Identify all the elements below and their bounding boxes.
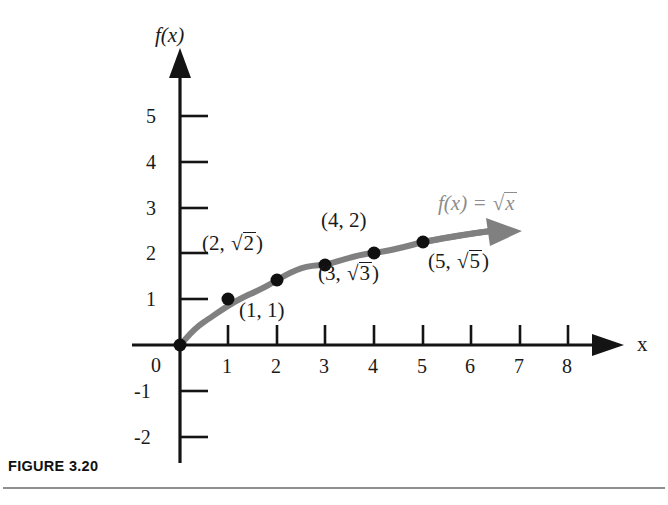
x-tick-label-3-text: 3 xyxy=(319,355,329,377)
y-tick-label-3-text: 3 xyxy=(146,197,156,219)
data-point-origin xyxy=(174,339,187,352)
x-tick-label-7: 7 xyxy=(514,356,524,376)
x-tick-label-5-text: 5 xyxy=(417,355,427,377)
y-tick-label-4: 4 xyxy=(146,152,156,172)
sqrt-symbol-icon: √3 xyxy=(346,262,372,284)
point-label-2-sqrt2: (2, √2) xyxy=(202,232,263,254)
data-point-4-2 xyxy=(368,247,381,260)
x-axis-title-text: x xyxy=(637,332,648,356)
x-tick-label-2: 2 xyxy=(271,356,281,376)
y-axis-arrow-icon xyxy=(169,48,191,78)
x-tick-label-7-text: 7 xyxy=(514,355,524,377)
x-tick-label-2-text: 2 xyxy=(271,355,281,377)
plot-canvas xyxy=(0,0,668,505)
x-tick-label-6-text: 6 xyxy=(465,355,475,377)
function-label-radicand: x xyxy=(504,192,516,214)
point-label-3-radicand: 3 xyxy=(359,262,373,284)
function-label-lhs: f(x) = xyxy=(438,191,492,215)
x-tick-label-4-text: 4 xyxy=(368,355,378,377)
y-tick-label-minus-2: -2 xyxy=(134,427,151,447)
function-label: f(x) = √x xyxy=(438,192,517,214)
point-label-4-2: (4, 2) xyxy=(321,210,367,231)
x-axis-arrow-icon xyxy=(592,334,624,356)
point-label-1-1: (1, 1) xyxy=(239,300,285,321)
point-label-5-sqrt5: (5, √5) xyxy=(428,250,489,272)
y-tick-label-1: 1 xyxy=(146,289,156,309)
y-axis-title: f(x) xyxy=(155,25,184,46)
y-tick-label-5: 5 xyxy=(146,106,156,126)
bottom-divider xyxy=(3,487,665,489)
curve-arrow-icon xyxy=(486,218,522,246)
data-point-2-sqrt2 xyxy=(271,274,284,287)
point-label-3-prefix: (3, xyxy=(318,261,346,285)
y-tick-label-2: 2 xyxy=(146,243,156,263)
point-label-3-suffix: ) xyxy=(372,261,379,285)
x-tick-label-8-text: 8 xyxy=(562,355,572,377)
point-label-5-suffix: ) xyxy=(482,249,489,273)
y-tick-label-minus-1: -1 xyxy=(134,381,151,401)
origin-label: 0 xyxy=(151,355,161,375)
point-label-4-text: (4, 2) xyxy=(321,208,367,232)
y-tick-label-minus-1-text: -1 xyxy=(134,380,151,402)
origin-label-text: 0 xyxy=(151,354,161,376)
data-point-5-sqrt5 xyxy=(417,236,430,249)
point-label-2-prefix: (2, xyxy=(202,231,230,255)
sqrt-symbol-icon: √2 xyxy=(230,232,256,254)
point-label-1-1-text: (1, 1) xyxy=(239,298,285,322)
figure-caption: FIGURE 3.20 xyxy=(8,458,98,474)
x-tick-label-3: 3 xyxy=(319,356,329,376)
point-label-2-radicand: 2 xyxy=(243,232,257,254)
point-label-5-radicand: 5 xyxy=(469,250,483,272)
x-tick-label-1: 1 xyxy=(222,356,232,376)
point-label-5-prefix: (5, xyxy=(428,249,456,273)
x-tick-label-4: 4 xyxy=(368,356,378,376)
sqrt-curve-extension xyxy=(423,230,496,242)
x-tick-label-8: 8 xyxy=(562,356,572,376)
y-tick-label-4-text: 4 xyxy=(146,151,156,173)
y-axis-title-text: f(x) xyxy=(155,23,184,47)
sqrt-symbol-icon: √5 xyxy=(456,250,482,272)
sqrt-symbol-icon: √x xyxy=(492,192,517,214)
figure-caption-text: FIGURE 3.20 xyxy=(8,458,98,474)
y-tick-label-2-text: 2 xyxy=(146,242,156,264)
data-point-1-1 xyxy=(222,293,235,306)
y-tick-label-minus-2-text: -2 xyxy=(134,426,151,448)
point-label-2-suffix: ) xyxy=(256,231,263,255)
y-tick-label-5-text: 5 xyxy=(146,105,156,127)
x-axis-title: x xyxy=(637,334,648,355)
figure-container: f(x) x 5 4 3 2 1 -1 -2 0 1 2 3 4 5 6 7 8… xyxy=(0,0,668,505)
x-tick-label-6: 6 xyxy=(465,356,475,376)
y-tick-label-1-text: 1 xyxy=(146,288,156,310)
y-tick-label-3: 3 xyxy=(146,198,156,218)
point-label-3-sqrt3: (3, √3) xyxy=(318,262,379,284)
x-tick-label-1-text: 1 xyxy=(222,355,232,377)
x-tick-label-5: 5 xyxy=(417,356,427,376)
